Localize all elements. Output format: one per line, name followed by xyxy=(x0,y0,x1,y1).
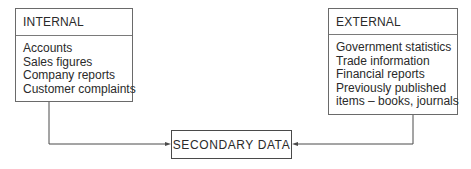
secondary-data-label: SECONDARY DATA xyxy=(173,138,291,152)
list-item: Previously published xyxy=(336,82,457,96)
internal-box-title: INTERNAL xyxy=(16,9,132,36)
list-item: Accounts xyxy=(23,42,132,56)
secondary-data-box: SECONDARY DATA xyxy=(171,130,292,159)
list-item: Financial reports xyxy=(336,68,457,82)
external-items-list: Government statistics Trade information … xyxy=(329,35,457,109)
list-item: items – books, journals xyxy=(336,95,457,109)
list-item: Trade information xyxy=(336,55,457,69)
list-item: Company reports xyxy=(23,69,132,83)
external-sources-box: EXTERNAL Government statistics Trade inf… xyxy=(328,8,458,115)
internal-to-secondary-connector xyxy=(49,102,168,144)
list-item: Customer complaints xyxy=(23,83,132,97)
internal-sources-box: INTERNAL Accounts Sales figures Company … xyxy=(15,8,133,102)
arrowhead-left-icon xyxy=(292,142,298,146)
external-to-secondary-connector xyxy=(295,115,413,144)
internal-items-list: Accounts Sales figures Company reports C… xyxy=(16,36,132,96)
list-item: Sales figures xyxy=(23,56,132,70)
list-item: Government statistics xyxy=(336,41,457,55)
external-box-title: EXTERNAL xyxy=(329,9,457,35)
